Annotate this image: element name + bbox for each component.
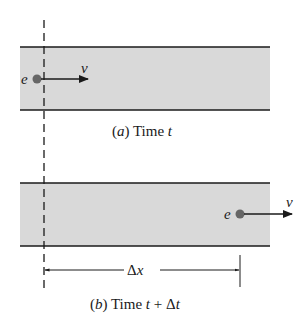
drift-velocity-diagram: e v (a) Time t e v Δx (b) Time t + Δt	[0, 0, 307, 334]
electron-label-a: e	[21, 71, 28, 87]
electron-b	[236, 210, 245, 219]
caption-b: (b) Time t + Δt	[90, 296, 181, 313]
velocity-label-a: v	[81, 60, 88, 76]
electron-a	[33, 75, 42, 84]
conductor-band-b	[20, 183, 270, 246]
displacement-label: Δx	[127, 262, 144, 278]
electron-label-b: e	[224, 206, 231, 222]
caption-a: (a) Time t	[112, 123, 173, 140]
panel-a: e v (a) Time t	[20, 47, 270, 140]
velocity-label-b: v	[286, 194, 293, 210]
panel-b: e v Δx (b) Time t + Δt	[20, 183, 293, 313]
